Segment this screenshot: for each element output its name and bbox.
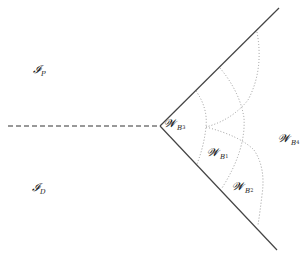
label-wb4-main: 𝓦 [278,132,290,145]
label-wb2-main: 𝓦 [232,180,244,193]
middle-dotted-arc [220,68,244,188]
inner-dotted-arc [196,91,206,164]
outer-upper-dotted-arc [206,32,259,127]
label-id: 𝓘D [32,182,46,193]
label-wb1-main: 𝓦 [207,146,219,159]
label-wb2-subsub: 2 [250,187,253,193]
label-wb3: 𝓦B3 [164,118,185,129]
lower-boundary-line [160,126,277,250]
label-wb1: 𝓦B1 [207,147,228,158]
label-wb4-subsub: 4 [296,139,299,145]
label-id-main: 𝓘 [32,181,39,194]
label-ip-sub: P [41,70,46,78]
label-wb3-main: 𝓦 [164,117,176,130]
label-ip-main: 𝓘 [33,63,40,76]
label-wb4: 𝓦B4 [278,133,299,144]
outer-lower-dotted-arc [206,127,263,225]
label-wb2: 𝓦B2 [232,181,253,192]
label-ip: 𝓘P [33,64,46,75]
wedge-diagram [0,0,307,258]
label-wb1-subsub: 1 [225,153,228,159]
label-wb3-subsub: 3 [182,124,185,130]
label-id-sub: D [40,188,46,196]
upper-boundary-line [160,8,279,126]
